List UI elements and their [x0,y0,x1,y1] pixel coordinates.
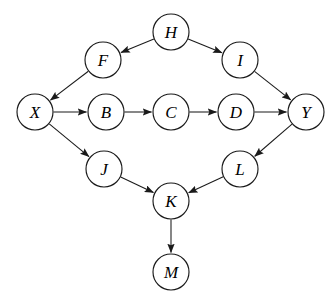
node-k[interactable]: K [153,183,189,219]
edge-j-to-k [121,177,154,193]
node-label-b: B [101,103,112,122]
node-label-x: X [29,103,41,122]
edge-i-to-y [255,71,291,99]
node-l[interactable]: L [222,151,258,187]
node-label-h: H [164,23,179,42]
diagram-canvas: HFIXBCDYJLKM [0,0,334,307]
node-h[interactable]: H [153,14,189,50]
edge-l-to-k [189,177,224,193]
edge-y-to-l [255,124,292,156]
node-label-m: M [163,263,179,282]
node-label-l: L [234,160,244,179]
node-label-y: Y [301,103,312,122]
node-label-d: D [229,103,243,122]
node-j[interactable]: J [86,151,122,187]
node-label-k: K [164,192,178,211]
node-f[interactable]: F [85,42,121,78]
edge-f-to-x [50,71,88,100]
node-m[interactable]: M [153,254,189,290]
edge-x-to-j [49,124,89,157]
edge-layer [49,39,292,253]
edge-h-to-f [121,39,154,53]
node-x[interactable]: X [17,94,53,130]
node-i[interactable]: I [222,42,258,78]
node-label-c: C [165,103,177,122]
directed-graph: HFIXBCDYJLKM [0,0,334,307]
node-d[interactable]: D [218,94,254,130]
node-y[interactable]: Y [288,94,324,130]
node-c[interactable]: C [153,94,189,130]
edge-h-to-i [188,39,222,53]
node-b[interactable]: B [88,94,124,130]
node-label-f: F [97,51,109,70]
